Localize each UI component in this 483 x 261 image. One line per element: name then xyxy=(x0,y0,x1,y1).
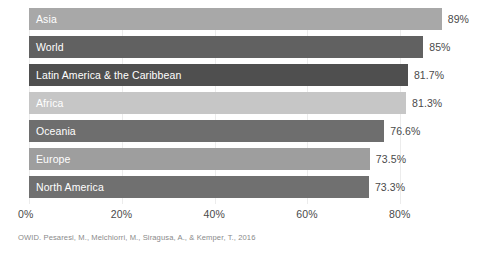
bar-category-label: World xyxy=(29,42,64,53)
bar[interactable]: Europe xyxy=(29,148,370,170)
bar[interactable]: Asia xyxy=(29,8,442,30)
bar-row: North America73.3% xyxy=(29,176,400,198)
bar-value-label: 73.5% xyxy=(370,148,406,170)
bar[interactable]: Latin America & the Caribbean xyxy=(29,64,408,86)
bar-row: Africa81.3% xyxy=(29,92,400,114)
bar[interactable]: Africa xyxy=(29,92,406,114)
bar-category-label: Africa xyxy=(29,98,63,109)
bar-category-label: North America xyxy=(29,182,104,193)
bar[interactable]: North America xyxy=(29,176,369,198)
bar-value-label: 85% xyxy=(423,36,450,58)
bar-value-label: 81.7% xyxy=(408,64,444,86)
bar-category-label: Asia xyxy=(29,14,57,25)
bar-value-label: 81.3% xyxy=(406,92,442,114)
bar-category-label: Europe xyxy=(29,154,70,165)
bar-value-label: 73.3% xyxy=(369,176,405,198)
x-tick-label: 0% xyxy=(18,208,33,220)
x-tick-label: 20% xyxy=(111,208,132,220)
x-axis: 0%20%40%60%80% xyxy=(29,208,400,224)
bar-row: World85% xyxy=(29,36,400,58)
bar-row: Latin America & the Caribbean81.7% xyxy=(29,64,400,86)
bar-category-label: Latin America & the Caribbean xyxy=(29,70,181,81)
bar[interactable]: World xyxy=(29,36,423,58)
bar-row: Europe73.5% xyxy=(29,148,400,170)
source-note: OWID. Pesaresi, M., Melchiorri, M., Sira… xyxy=(18,233,256,242)
bar-value-label: 76.6% xyxy=(384,120,420,142)
x-tick-label: 80% xyxy=(389,208,410,220)
plot-area: Asia89%World85%Latin America & the Carib… xyxy=(29,8,400,204)
bar-row: Oceania76.6% xyxy=(29,120,400,142)
bar-value-label: 89% xyxy=(442,8,469,30)
bar-chart: Asia89%World85%Latin America & the Carib… xyxy=(0,0,483,261)
bar[interactable]: Oceania xyxy=(29,120,384,142)
x-tick-label: 40% xyxy=(204,208,225,220)
x-tick-label: 60% xyxy=(296,208,317,220)
bar-category-label: Oceania xyxy=(29,126,76,137)
bar-row: Asia89% xyxy=(29,8,400,30)
